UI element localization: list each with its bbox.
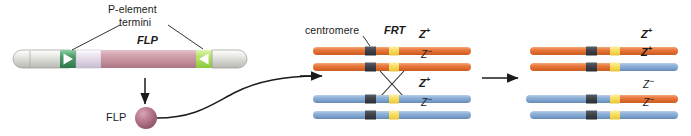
right-chromatid-2 (530, 63, 678, 72)
middle-panel-chromatids (313, 36, 471, 120)
flp-gene-label: FLP (137, 34, 158, 46)
leader-line-right (168, 25, 203, 49)
frt-site (610, 47, 620, 56)
right-panel-chromatids (526, 47, 678, 120)
middle-allele-4: Z− (421, 94, 432, 108)
flp-protein-ball (135, 107, 157, 129)
right-allele-4: Z− (643, 94, 654, 108)
centromere-mark (586, 63, 597, 72)
middle-chromatid-3 (313, 95, 471, 104)
centromere-mark (365, 63, 376, 72)
right-allele-2: Z+ (641, 44, 652, 58)
p-element-label-line1: P-element (108, 3, 157, 15)
centromere-mark (586, 111, 597, 120)
middle-allele-2: Z− (421, 46, 432, 60)
construct-spacer (76, 50, 101, 68)
frt-site (610, 63, 620, 72)
frt-site (389, 63, 399, 72)
centromere-leader-line (363, 36, 370, 46)
right-allele-3: Z− (643, 76, 654, 90)
centromere-mark (586, 95, 597, 104)
middle-chromatid-2 (313, 63, 471, 72)
middle-allele-3: Z+ (419, 75, 430, 89)
crossover-x (380, 71, 404, 97)
middle-chromatid-1 (313, 47, 471, 56)
leader-line-left (72, 25, 120, 50)
figure-canvas (0, 0, 691, 136)
p-element-construct (13, 25, 247, 129)
frt-site (610, 111, 620, 120)
frt-site (389, 111, 399, 120)
centromere-mark (365, 111, 376, 120)
middle-allele-1: Z+ (419, 26, 430, 40)
middle-chromatid-4 (313, 111, 471, 120)
arrow-flp-to-chromatids (157, 76, 318, 118)
flp-protein-label: FLP (106, 111, 126, 123)
frt-site (389, 95, 399, 104)
construct-right-arm (212, 50, 247, 68)
right-chromatid-3 (526, 95, 678, 104)
centromere-label: centromere (305, 24, 359, 36)
frt-site (389, 47, 399, 56)
right-allele-1: Z+ (641, 26, 652, 40)
flp-gene-body (101, 50, 196, 68)
p-element-label-line2: termini (119, 16, 151, 28)
frt-site (610, 95, 620, 104)
frt-label: FRT (384, 24, 405, 36)
centromere-mark (586, 47, 597, 56)
centromere-mark (365, 47, 376, 56)
centromere-mark (365, 95, 376, 104)
right-chromatid-4 (530, 111, 678, 120)
right-chromatid-1 (530, 47, 678, 56)
figure-root: P-element termini FLP FLP centromere FRT… (0, 0, 691, 136)
